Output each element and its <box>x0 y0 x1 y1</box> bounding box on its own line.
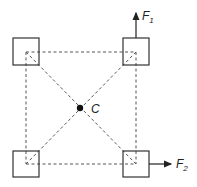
force-label-f2: F2 <box>176 157 188 173</box>
force-diagram: C F1 F2 <box>0 0 197 187</box>
center-point <box>77 105 83 111</box>
center-label: C <box>91 102 100 116</box>
diagram-canvas: C F1 F2 <box>0 0 197 187</box>
force-label-f1: F1 <box>142 9 154 25</box>
